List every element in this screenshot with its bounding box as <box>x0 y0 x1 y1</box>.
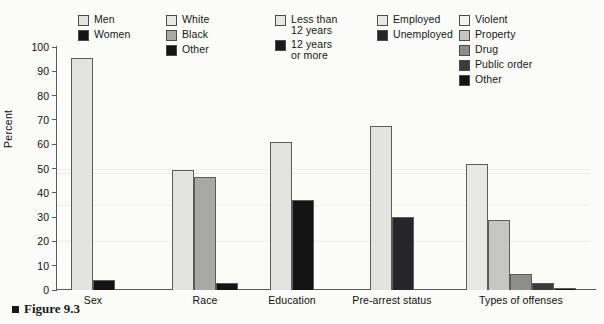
x-axis-group-label: Types of offenses <box>479 294 563 306</box>
y-axis-tick-label: 30 <box>37 211 49 223</box>
figure-caption-text: Figure 9.3 <box>24 301 80 317</box>
bar <box>216 283 238 290</box>
bar <box>93 280 115 290</box>
figure-9-3: MenWomen WhiteBlackOther Less than 12 ye… <box>0 0 604 324</box>
bar-group <box>370 47 414 290</box>
legend-item: Women <box>78 29 131 41</box>
bar <box>532 283 554 290</box>
y-axis-tick-label: 40 <box>37 186 49 198</box>
bar <box>71 58 93 290</box>
legend-item-label: Men <box>94 14 115 25</box>
x-axis-group-label: Education <box>268 294 316 306</box>
legend-swatch-icon <box>459 30 470 41</box>
bar-group <box>270 47 314 290</box>
bar <box>510 274 532 290</box>
legend-item: Property <box>459 29 532 41</box>
bar <box>488 220 510 290</box>
legend-item: Employed <box>377 14 453 26</box>
legend-swatch-icon <box>377 30 388 41</box>
legend-swatch-icon <box>78 30 89 41</box>
bar <box>466 164 488 290</box>
legend-item-label: Property <box>475 29 515 40</box>
bar <box>392 217 414 290</box>
y-axis-tick-label: 0 <box>43 284 49 296</box>
y-axis-title: Percent <box>2 110 14 148</box>
legend-item-label: White <box>182 14 209 25</box>
legend-sex: MenWomen <box>78 14 131 41</box>
legend-item-label: Employed <box>393 14 441 25</box>
legend-swatch-icon <box>166 15 177 26</box>
legend-swatch-icon <box>377 15 388 26</box>
legend-item-label: Violent <box>475 14 508 25</box>
square-marker-icon <box>12 306 19 313</box>
y-axis-tick-label: 20 <box>37 235 49 247</box>
y-axis-tick-label: 100 <box>31 41 49 53</box>
y-axis-tick-label: 10 <box>37 259 49 271</box>
y-axis: 0102030405060708090100 <box>0 47 57 290</box>
y-axis-tick-label: 50 <box>37 162 49 174</box>
legend-item: Black <box>166 29 209 41</box>
y-axis-line <box>56 46 57 290</box>
legend-item: Violent <box>459 14 532 26</box>
bar <box>292 200 314 290</box>
plot-area: SexRaceEducationPre-arrest statusTypes o… <box>57 47 590 290</box>
bar-group <box>71 47 115 290</box>
y-axis-tick-label: 90 <box>37 65 49 77</box>
x-axis-group-label: Sex <box>84 294 102 306</box>
legend-swatch-icon <box>78 15 89 26</box>
legend-item: White <box>166 14 209 26</box>
figure-caption: Figure 9.3 <box>12 301 80 317</box>
bar <box>194 177 216 290</box>
x-axis-group-label: Pre-arrest status <box>352 294 431 306</box>
y-axis-tick-label: 70 <box>37 113 49 125</box>
legend-item: Unemployed <box>377 29 453 41</box>
y-axis-tick-label: 60 <box>37 138 49 150</box>
legend-pre-arrest-status: EmployedUnemployed <box>377 14 453 41</box>
legend-item-label: Less than 12 years <box>291 14 337 36</box>
bar <box>270 142 292 290</box>
legend-item: Men <box>78 14 131 26</box>
bar <box>172 170 194 290</box>
y-axis-tick-label: 80 <box>37 89 49 101</box>
bar-group <box>172 47 238 290</box>
bar-group <box>466 47 576 290</box>
legend-item-label: Black <box>182 29 208 40</box>
bar <box>554 288 576 290</box>
legend-swatch-icon <box>166 30 177 41</box>
legend-swatch-icon <box>459 15 470 26</box>
legend-swatch-icon <box>275 15 286 26</box>
legend-item-label: Unemployed <box>393 29 453 40</box>
bar <box>370 126 392 290</box>
x-axis-group-label: Race <box>193 294 218 306</box>
legend-item: Less than 12 years <box>275 14 337 36</box>
legend-item-label: Women <box>94 29 131 40</box>
